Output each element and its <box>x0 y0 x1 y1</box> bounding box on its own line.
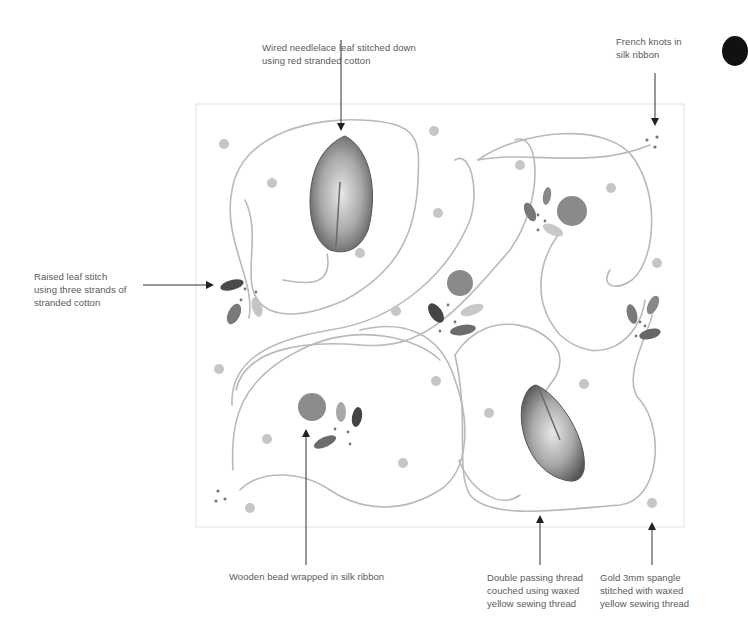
callout-arrows <box>143 40 655 565</box>
label-passing-thread: Double passing thread couched using waxe… <box>487 571 583 610</box>
label-needlelace-leaf: Wired needlelace leaf stitched down usin… <box>262 41 416 67</box>
label-spangle: Gold 3mm spangle stitched with waxed yel… <box>600 571 689 610</box>
label-french-knots: French knots in silk ribbon <box>616 35 682 61</box>
label-raised-leaf: Raised leaf stitch using three strands o… <box>34 270 126 309</box>
needlelace-leaf-bottom <box>521 385 584 481</box>
label-wooden-bead: Wooden bead wrapped in silk ribbon <box>229 570 384 583</box>
raised-leaves <box>219 186 662 451</box>
needlelace-leaf-top <box>310 136 373 252</box>
